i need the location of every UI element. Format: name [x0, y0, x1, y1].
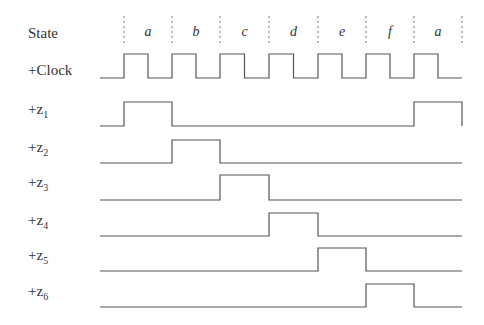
signal-waveform-z4 — [100, 213, 462, 236]
signal-waveform-z5 — [100, 248, 462, 271]
clock-waveform — [100, 54, 462, 78]
signal-waveform-z2 — [100, 140, 462, 163]
signal-waveform-z6 — [100, 284, 462, 307]
waveforms — [0, 0, 484, 325]
signal-waveform-z1 — [100, 102, 462, 126]
timing-diagram: State +Clock +z1+z2+z3+z4+z5+z6 abcdefa — [0, 0, 484, 325]
signal-waveform-z3 — [100, 175, 462, 200]
